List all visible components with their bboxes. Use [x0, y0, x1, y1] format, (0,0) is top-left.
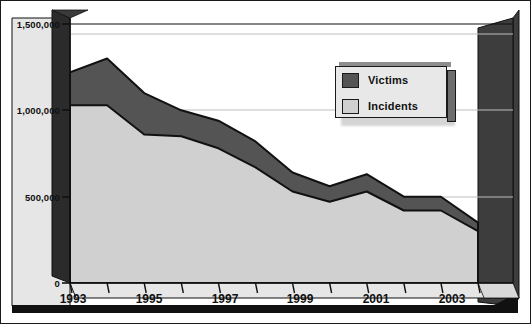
- legend-side-face: [447, 70, 456, 122]
- legend-item-victims[interactable]: Victims: [336, 67, 446, 93]
- y-tick-label-0: 0: [6, 278, 60, 289]
- y-tick-label-1000000: 1,000,000: [6, 105, 60, 116]
- legend-label-victims: Victims: [368, 74, 408, 86]
- figure-base-bar: [12, 305, 506, 313]
- chart-figure: 1,500,000 1,000,000 500,000 0 1993 1995 …: [0, 0, 531, 324]
- chart-legend[interactable]: Victims Incidents: [335, 66, 447, 118]
- chart-svg: [8, 6, 523, 316]
- chart-3d-body: [8, 6, 523, 316]
- y-tick-label-500000: 500,000: [6, 192, 60, 203]
- left-depth-wall: [52, 10, 70, 283]
- y-tick-label-1500000: 1,500,000: [6, 19, 60, 30]
- legend-swatch-victims: [342, 73, 359, 88]
- x-tick-label-1995: 1995: [124, 292, 174, 306]
- right-depth-wall-inner: [478, 18, 513, 306]
- legend-label-incidents: Incidents: [368, 100, 418, 112]
- right-depth-wall: [513, 10, 519, 306]
- x-tick-label-1999: 1999: [275, 292, 325, 306]
- x-tick-label-2003: 2003: [427, 292, 477, 306]
- legend-item-incidents[interactable]: Incidents: [336, 93, 446, 119]
- x-tick-label-1993: 1993: [48, 292, 98, 306]
- floor-right-wedge: [478, 283, 519, 298]
- x-tick-label-2001: 2001: [351, 292, 401, 306]
- x-tick-label-1997: 1997: [200, 292, 250, 306]
- legend-swatch-incidents: [342, 99, 359, 114]
